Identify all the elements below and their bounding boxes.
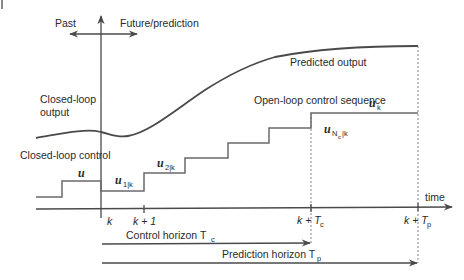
svg-text:1|k: 1|k [123, 180, 133, 189]
tick-label-k1: k + 1 [133, 215, 156, 227]
control-horizon-arrow [102, 243, 310, 244]
uNck-symbol: u N c |k [324, 122, 348, 140]
svg-text:k: k [377, 103, 381, 112]
svg-text:u: u [324, 122, 331, 136]
closed-loop-output-label-2: output [40, 106, 69, 118]
prediction-horizon: Prediction horizon T p [102, 248, 417, 263]
open-loop-sequence-label: Open-loop control sequence [254, 94, 386, 106]
predicted-output-label: Predicted output [290, 56, 367, 68]
svg-text:u: u [369, 96, 376, 110]
svg-text:u: u [157, 156, 164, 170]
tick-label-kTc: k + T c [297, 214, 324, 229]
svg-text:N: N [332, 129, 337, 138]
svg-text:k + T: k + T [297, 214, 322, 226]
u1k-symbol: u 1|k [115, 173, 133, 189]
svg-text:k + T: k + T [404, 214, 429, 226]
time-axis-label: time [425, 191, 445, 203]
svg-text:p: p [317, 254, 321, 263]
svg-text:c: c [211, 235, 215, 244]
u2k-symbol: u 2|k [157, 156, 175, 172]
closed-loop-output-label: Closed-loop [40, 93, 96, 105]
svg-text:c: c [320, 220, 324, 229]
svg-text:2|k: 2|k [165, 163, 175, 172]
u-symbol: u [78, 166, 85, 180]
tick-label-k: k [107, 215, 113, 227]
closed-loop-control-label: Closed-loop control [20, 149, 110, 161]
svg-text:c: c [338, 134, 341, 140]
svg-text:p: p [427, 220, 431, 229]
control-horizon: Control horizon T c [102, 229, 310, 244]
time-axis [36, 207, 452, 209]
svg-text:Prediction horizon T: Prediction horizon T [222, 248, 316, 260]
mpc-diagram: Past Future/prediction Closed-loop outpu… [0, 0, 464, 280]
future-label: Future/prediction [120, 17, 199, 29]
svg-text:Control horizon T: Control horizon T [126, 229, 207, 241]
past-label: Past [55, 17, 76, 29]
svg-text:u: u [115, 173, 122, 187]
svg-text:|k: |k [342, 129, 348, 138]
